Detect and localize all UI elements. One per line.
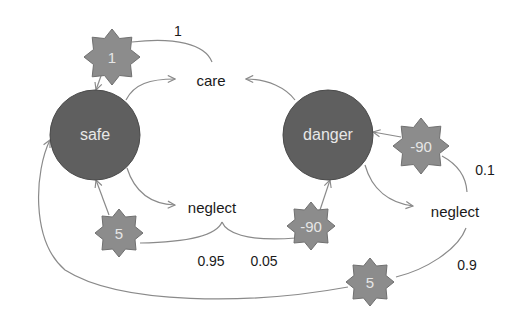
state-safe-label: safe: [80, 126, 110, 144]
edge-danger-to-care: [246, 79, 295, 100]
mdp-diagram: safe danger care neglect neglect 1 -90 5…: [0, 0, 523, 317]
action-safe-neglect-label: neglect: [188, 199, 236, 216]
edge-safe-to-care: [126, 79, 175, 100]
edge-neglect-split-right: [222, 222, 296, 239]
edge-reward-m90-to-danger: [320, 180, 330, 210]
prob-safe-neglect-danger-label: 0.05: [250, 253, 277, 269]
diagram-graphics: [0, 0, 523, 317]
prob-danger-neglect-safe-label: 0.9: [457, 257, 476, 273]
edge-danger-to-neglect: [365, 165, 413, 206]
action-care-label: care: [196, 72, 225, 89]
edge-neglect-split-left: [140, 222, 222, 243]
state-danger-label: danger: [303, 126, 353, 144]
edge-neglect-to-reward-m90: [442, 156, 467, 192]
reward-safe-neglect-danger-label: -90: [300, 218, 322, 235]
prob-safe-neglect-safe-label: 0.95: [197, 253, 224, 269]
reward-safe-neglect-safe-label: 5: [115, 225, 123, 242]
edge-care-to-reward-1: [132, 40, 212, 62]
edge-reward-m90-to-danger-right: [373, 132, 401, 137]
reward-danger-stay-label: -90: [410, 138, 432, 155]
reward-danger-neglect-safe-label: 5: [366, 274, 374, 291]
action-danger-neglect-label: neglect: [431, 203, 479, 220]
reward-1-label: 1: [108, 49, 116, 66]
prob-danger-neglect-danger-label: 0.1: [475, 162, 494, 178]
edge-reward-5-to-safe: [96, 180, 109, 215]
prob-care-label: 1: [174, 23, 182, 39]
edge-safe-to-neglect: [127, 168, 175, 205]
edge-neglect-to-reward-5: [396, 228, 466, 277]
